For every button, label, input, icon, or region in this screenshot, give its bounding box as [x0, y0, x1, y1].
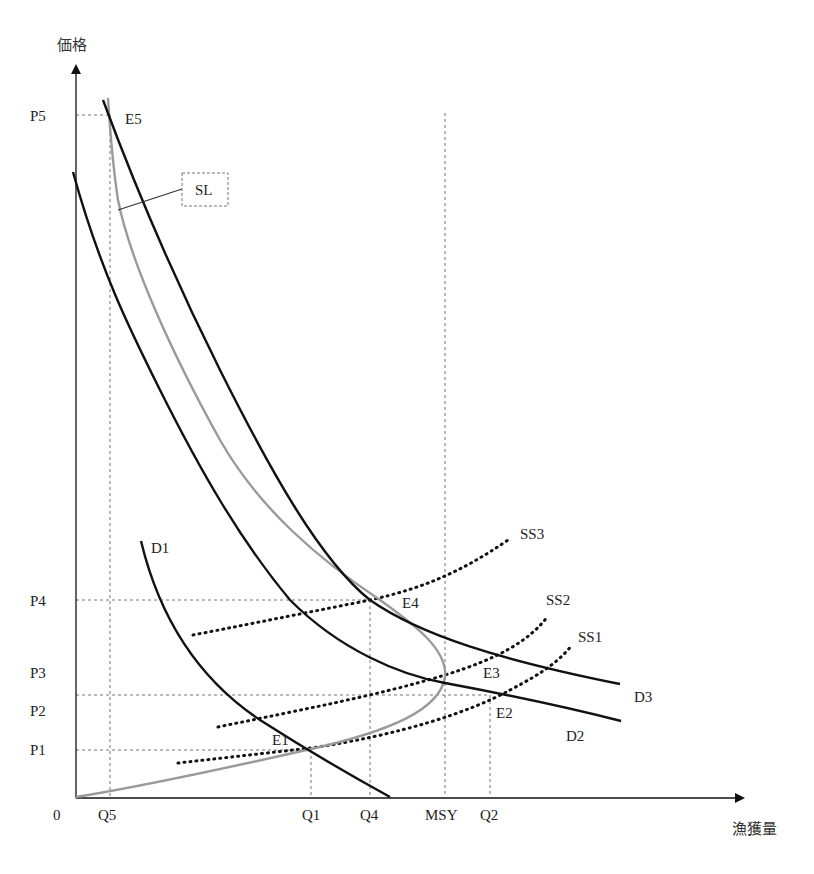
p2-label: P2 — [30, 703, 46, 719]
d1-label: D1 — [151, 540, 169, 556]
ss1-label: SS1 — [578, 629, 602, 645]
e4-label: E4 — [402, 595, 419, 611]
origin-label: 0 — [53, 807, 61, 823]
d3-curve — [103, 100, 620, 684]
p4-label: P4 — [30, 593, 46, 609]
guide-lines — [76, 113, 490, 797]
p1-label: P1 — [30, 742, 46, 758]
e2-label: E2 — [496, 705, 513, 721]
y-axis-title: 価格 — [57, 36, 87, 54]
q1-label: Q1 — [302, 807, 320, 823]
p5-label: P5 — [30, 108, 46, 124]
q4-label: Q4 — [360, 807, 379, 823]
e3-label: E3 — [483, 665, 500, 681]
d2-curve — [73, 172, 621, 721]
q2-label: Q2 — [480, 807, 498, 823]
sl-label: SL — [195, 182, 213, 198]
q5-label: Q5 — [98, 807, 116, 823]
x-axis-title: 漁獲量 — [732, 820, 777, 838]
ss2-label: SS2 — [546, 592, 570, 608]
msy-label: MSY — [425, 807, 458, 823]
ss3-label: SS3 — [520, 526, 544, 542]
e5-label: E5 — [125, 111, 142, 127]
p3-label: P3 — [30, 665, 46, 681]
d2-label: D2 — [566, 728, 584, 744]
e1-label: E1 — [272, 732, 289, 748]
sl-leader-line — [118, 189, 182, 210]
ss3-curve — [193, 540, 508, 635]
d3-label: D3 — [634, 689, 652, 705]
fishery-supply-demand-diagram: SL 価格 漁獲量 0 P5 P4 P3 P2 P1 Q5 Q1 Q4 MSY … — [0, 0, 814, 874]
